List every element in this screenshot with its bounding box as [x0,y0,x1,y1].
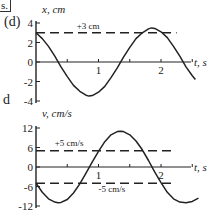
x-tick-label: 2 [158,64,164,76]
x-tick-label: 1 [96,169,102,181]
velocity-chart: -12-6061212t, sv, cm/s+5 cm/s-5 cm/s [18,107,207,212]
annotation: +3 cm [77,21,100,31]
y-tick-label: -4 [24,95,34,107]
y-tick-label: 2 [28,37,34,49]
y-tick-label: 6 [28,142,34,154]
position-chart: -4-202412t, sx, cm+3 cm [24,3,207,107]
y-tick-label: 0 [28,161,34,173]
x-tick-label: 1 [96,64,102,76]
y-tick-label: 12 [22,122,33,134]
y-tick-label: -6 [24,181,34,193]
y-tick-label: 0 [28,56,34,68]
figure: -4-202412t, sx, cm+3 cm -12-6061212t, sv… [0,0,212,214]
y-tick-label: -2 [24,76,33,88]
y-tick-label: -12 [18,200,33,212]
y-axis-label: x, cm [41,3,65,15]
y-axis-label: v, cm/s [42,107,72,119]
annotation: +5 cm/s [55,138,84,148]
annotation: -5 cm/s [99,184,126,194]
x-axis-label: t, s [194,56,207,68]
x-axis-label: t, s [194,161,207,173]
y-tick-label: 4 [28,17,34,29]
